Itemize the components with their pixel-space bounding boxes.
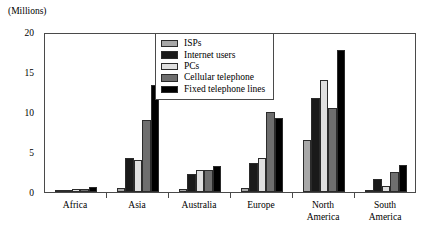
bar-group-bars: [355, 34, 417, 192]
bar: [241, 188, 250, 192]
x-axis-label: Africa: [63, 200, 87, 212]
x-axis-separator: [292, 193, 293, 198]
x-axis-separator: [168, 193, 169, 198]
bar: [134, 160, 143, 192]
bar: [72, 189, 81, 192]
bar: [365, 190, 374, 192]
x-axis-separator: [230, 193, 231, 198]
legend-item: Internet users: [161, 49, 265, 60]
legend-label: ISPs: [184, 38, 201, 49]
legend-item: Cellular telephone: [161, 72, 265, 83]
bar: [55, 190, 64, 192]
bar: [258, 158, 267, 192]
x-axis-label: Asia: [128, 200, 145, 212]
x-axis-label: Australia: [182, 200, 217, 212]
chart-unit-title: (Millions): [8, 6, 47, 17]
bar-group-bars: [293, 34, 355, 192]
x-axis-labels: AfricaAsiaAustraliaEuropeNorth AmericaSo…: [44, 200, 416, 244]
legend-label: Fixed telephone lines: [184, 84, 265, 95]
bar: [266, 112, 275, 192]
bar: [89, 187, 98, 192]
legend-swatch: [161, 63, 178, 71]
bar: [117, 188, 126, 192]
bar: [249, 163, 258, 192]
bar: [179, 189, 188, 192]
bar: [80, 189, 89, 192]
bar: [151, 85, 160, 192]
chart-legend: ISPsInternet usersPCsCellular telephoneF…: [155, 33, 274, 100]
bar: [303, 140, 312, 192]
legend-label: Cellular telephone: [184, 72, 254, 83]
x-axis-label: South America: [369, 200, 402, 223]
y-tick-label: 20: [25, 28, 35, 38]
legend-swatch: [161, 86, 178, 94]
bar: [399, 165, 408, 192]
x-axis-separator: [106, 193, 107, 198]
legend-swatch: [161, 51, 178, 59]
x-axis-separator: [354, 193, 355, 198]
y-tick-label: 5: [29, 148, 34, 158]
bar: [382, 186, 391, 192]
bar: [328, 108, 337, 192]
legend-item: PCs: [161, 61, 265, 72]
bar: [187, 174, 196, 192]
legend-swatch: [161, 40, 178, 48]
bar-group: [355, 34, 417, 192]
bar: [213, 166, 222, 192]
bar: [142, 120, 151, 192]
bar: [390, 172, 399, 192]
bar: [196, 170, 205, 192]
bar-group: [293, 34, 355, 192]
bar: [125, 158, 134, 192]
x-axis-label: North America: [307, 200, 340, 223]
legend-label: Internet users: [184, 50, 235, 61]
legend-item: Fixed telephone lines: [161, 84, 265, 95]
y-tick-label: 10: [25, 108, 35, 118]
bar: [373, 179, 382, 192]
bar-group: [45, 34, 107, 192]
legend-label: PCs: [184, 61, 199, 72]
x-axis-separators: [44, 193, 416, 199]
bar: [320, 80, 329, 192]
y-tick-label: 15: [25, 68, 35, 78]
x-axis-label: Europe: [247, 200, 274, 212]
legend-swatch: [161, 74, 178, 82]
bar: [311, 98, 320, 192]
y-tick-label: 0: [29, 188, 34, 198]
bar: [275, 118, 284, 192]
chart-figure: (Millions) 05101520 AfricaAsiaAustraliaE…: [0, 0, 428, 247]
bar: [337, 50, 346, 192]
y-axis-labels: 05101520: [0, 33, 40, 193]
legend-item: ISPs: [161, 38, 265, 49]
bar: [204, 170, 213, 192]
bar: [63, 190, 72, 192]
bar-group-bars: [45, 34, 107, 192]
